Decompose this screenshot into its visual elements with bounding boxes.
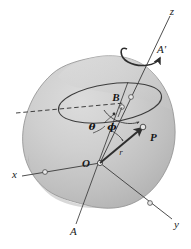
z-axis-node (129, 95, 134, 100)
label-A-prime: A' (156, 43, 167, 55)
theta-marker-dot (113, 113, 116, 116)
label-y-axis: y (173, 218, 179, 230)
label-point-P: P (150, 131, 157, 143)
y-axis-node (148, 201, 153, 206)
point-P-node (140, 124, 146, 130)
label-radius-r: r (119, 147, 123, 157)
x-axis-node (43, 170, 48, 175)
label-A-axis: A (69, 225, 77, 237)
spherical-coordinates-diagram: z A' x y A O P B θ ϕ r (0, 0, 191, 249)
label-origin-O: O (82, 157, 90, 169)
label-point-B: B (111, 91, 119, 103)
figure-container: z A' x y A O P B θ ϕ r (0, 0, 191, 249)
label-angle-phi: ϕ (107, 121, 117, 132)
label-x-axis: x (11, 168, 17, 180)
label-z-axis: z (169, 5, 175, 17)
label-angle-theta: θ (89, 121, 96, 132)
